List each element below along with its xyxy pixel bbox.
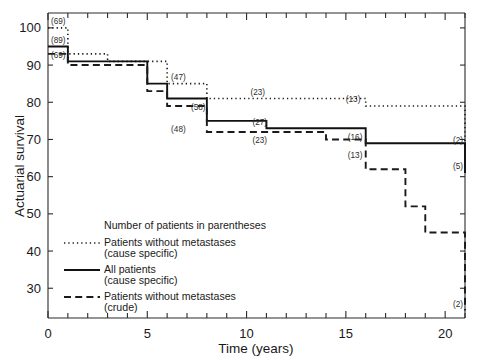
y-axis-title: Actuarial survival [12, 115, 27, 217]
y-tick-label: 30 [27, 281, 41, 296]
count-label: (2) [453, 300, 463, 309]
x-tick-label: 15 [339, 326, 353, 341]
count-label: (2) [453, 136, 463, 145]
y-tick-label: 50 [27, 206, 41, 221]
count-label: (13) [346, 95, 361, 104]
y-tick-label: 100 [19, 20, 41, 35]
x-axis-tick-labels: 05101520 [44, 326, 452, 341]
count-label: (16) [348, 133, 363, 142]
survival-chart-figure: 30405060708090100 05101520 Actuarial sur… [0, 0, 486, 361]
actuarial-survival-chart: 30405060708090100 05101520 Actuarial sur… [0, 0, 486, 361]
count-label: (23) [253, 136, 268, 145]
legend-label-0-line2: (cause specific) [104, 247, 178, 259]
count-label: (89) [51, 36, 66, 45]
legend-label-1-line2: (cause specific) [104, 274, 178, 286]
x-axis-title: Time (years) [218, 341, 293, 356]
y-tick-label: 80 [27, 95, 41, 110]
y-tick-label: 60 [27, 169, 41, 184]
count-label: (69) [51, 51, 66, 60]
y-tick-label: 40 [27, 244, 41, 259]
count-label: (13) [348, 151, 363, 160]
y-tick-label: 90 [27, 58, 41, 73]
y-tick-label: 70 [27, 132, 41, 147]
count-label: (23) [251, 88, 266, 97]
x-tick-label: 5 [144, 326, 151, 341]
legend-label-2-line2: (crude) [104, 301, 138, 313]
x-tick-label: 10 [239, 326, 253, 341]
x-tick-label: 20 [438, 326, 452, 341]
count-label: (47) [171, 73, 186, 82]
chart-legend: Number of patients in parentheses Patien… [64, 219, 266, 313]
count-label: (48) [171, 125, 186, 134]
count-label: (5) [453, 162, 463, 171]
x-tick-label: 0 [44, 326, 51, 341]
legend-note: Number of patients in parentheses [104, 219, 266, 231]
count-label: (58) [191, 103, 206, 112]
count-label: (27) [253, 118, 268, 127]
count-label: (69) [51, 17, 66, 26]
